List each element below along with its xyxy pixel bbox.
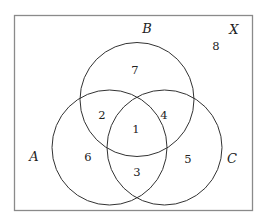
region-c-only-number: 5 xyxy=(184,152,191,166)
region-bc-number: 4 xyxy=(160,108,167,122)
region-abc-number: 1 xyxy=(132,122,139,136)
set-a-label: A xyxy=(28,149,38,164)
set-a-circle xyxy=(52,90,167,205)
set-b-label: B xyxy=(141,21,152,36)
universe-label: X xyxy=(228,22,239,37)
region-b-only-number: 7 xyxy=(131,63,138,77)
venn-diagram: B X A C 8 7 2 4 1 6 5 3 xyxy=(0,0,266,220)
set-c-label: C xyxy=(227,151,237,166)
region-ac-number: 3 xyxy=(133,165,140,179)
region-outside-number: 8 xyxy=(212,39,219,53)
region-a-only-number: 6 xyxy=(84,150,91,164)
set-b-circle xyxy=(80,43,194,157)
region-ab-number: 2 xyxy=(98,108,105,122)
